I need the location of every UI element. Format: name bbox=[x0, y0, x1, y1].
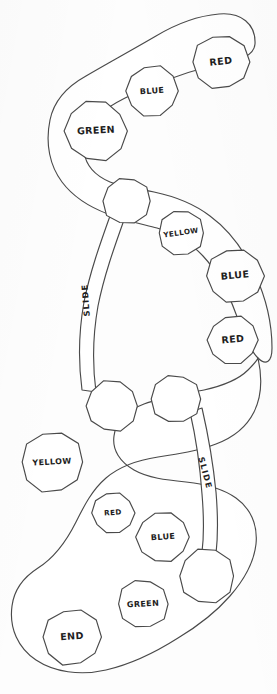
space-red-2[interactable]: RED bbox=[207, 316, 258, 363]
space-red-3-label: RED bbox=[104, 507, 122, 517]
space-yellow-1[interactable]: YELLOW bbox=[159, 212, 203, 255]
board-drawing: REDBLUEGREENYELLOWBLUEREDYELLOWREDBLUEGR… bbox=[0, 0, 277, 694]
space-green-2-label: GREEN bbox=[127, 599, 160, 610]
space-blue-3-label: BLUE bbox=[150, 532, 175, 543]
space-end-label: END bbox=[60, 630, 84, 643]
space-green-1-label: GREEN bbox=[77, 124, 116, 137]
space-blue-1-label: BLUE bbox=[139, 86, 164, 97]
space-red-1[interactable]: RED bbox=[193, 37, 250, 89]
board-sketch-canvas: REDBLUEGREENYELLOWBLUEREDYELLOWREDBLUEGR… bbox=[0, 0, 277, 694]
space-blank-3-outline bbox=[151, 376, 200, 422]
space-yellow-2[interactable]: YELLOW bbox=[22, 433, 82, 492]
space-green-2[interactable]: GREEN bbox=[119, 581, 168, 627]
space-blank-3[interactable] bbox=[151, 376, 200, 422]
space-red-2-label: RED bbox=[221, 333, 245, 346]
